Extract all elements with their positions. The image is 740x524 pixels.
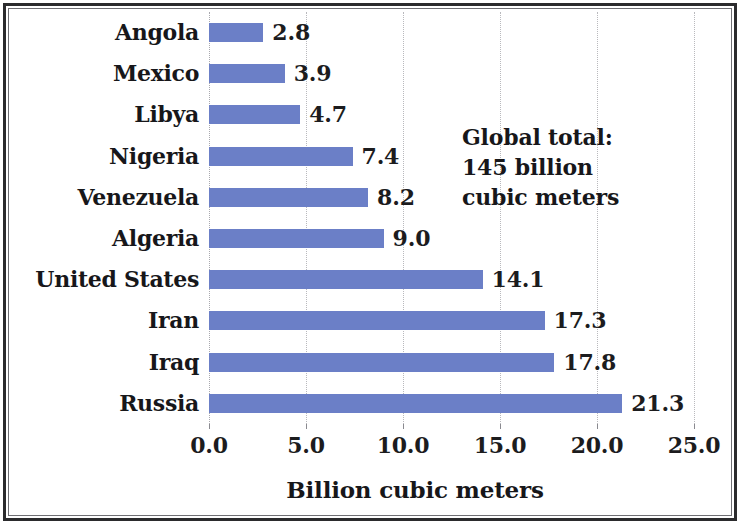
tick-mark-20.0 — [597, 424, 598, 429]
bar-row: 9.0 — [209, 218, 694, 259]
x-tick-label: 10.0 — [377, 432, 429, 458]
category-label-united-states: United States — [0, 266, 199, 292]
global-total-annotation: Global total: 145 billion cubic meters — [462, 122, 619, 212]
plot-area: 2.83.94.77.48.29.014.117.317.821.3 — [209, 12, 694, 424]
bar-algeria[interactable] — [209, 229, 384, 248]
bar-iraq[interactable] — [209, 353, 554, 372]
bar-value-label: 9.0 — [393, 225, 431, 251]
bar-venezuela[interactable] — [209, 188, 368, 207]
category-label-iran: Iran — [0, 307, 199, 333]
bar-mexico[interactable] — [209, 64, 285, 83]
annotation-line-3: cubic meters — [462, 182, 619, 212]
category-label-algeria: Algeria — [0, 225, 199, 251]
x-tick-label: 20.0 — [571, 432, 623, 458]
annotation-line-1: Global total: — [462, 122, 619, 152]
category-axis-labels: AngolaMexicoLibyaNigeriaVenezuelaAlgeria… — [0, 12, 199, 424]
tick-mark-25.0 — [694, 424, 695, 429]
tick-mark-10.0 — [403, 424, 404, 429]
x-tick-label: 25.0 — [668, 432, 720, 458]
bar-value-label: 2.8 — [272, 19, 310, 45]
bar-iran[interactable] — [209, 311, 545, 330]
bar-libya[interactable] — [209, 105, 300, 124]
tick-mark-15.0 — [500, 424, 501, 429]
bar-row: 17.3 — [209, 300, 694, 341]
bar-russia[interactable] — [209, 394, 622, 413]
bar-angola[interactable] — [209, 23, 263, 42]
category-label-nigeria: Nigeria — [0, 143, 199, 169]
bar-row: 7.4 — [209, 136, 694, 177]
bar-nigeria[interactable] — [209, 147, 353, 166]
bar-value-label: 17.3 — [554, 307, 607, 333]
tick-mark-5.0 — [306, 424, 307, 429]
bar-row: 17.8 — [209, 342, 694, 383]
bar-value-label: 21.3 — [631, 390, 684, 416]
bar-value-label: 17.8 — [563, 349, 616, 375]
x-tick-label: 15.0 — [474, 432, 526, 458]
category-label-iraq: Iraq — [0, 349, 199, 375]
bar-row: 4.7 — [209, 94, 694, 135]
bar-row: 21.3 — [209, 383, 694, 424]
bar-value-label: 4.7 — [309, 101, 347, 127]
annotation-line-2: 145 billion — [462, 152, 619, 182]
bar-value-label: 14.1 — [492, 266, 545, 292]
bar-row: 3.9 — [209, 53, 694, 94]
category-label-libya: Libya — [0, 101, 199, 127]
category-label-venezuela: Venezuela — [0, 184, 199, 210]
x-tick-label: 0.0 — [190, 432, 227, 458]
x-tick-label: 5.0 — [287, 432, 324, 458]
category-label-russia: Russia — [0, 390, 199, 416]
gridline-25.0 — [694, 12, 696, 424]
tick-mark-0.0 — [209, 424, 210, 429]
x-axis-title: Billion cubic meters — [0, 476, 740, 503]
category-label-mexico: Mexico — [0, 60, 199, 86]
bar-value-label: 8.2 — [377, 184, 415, 210]
bar-value-label: 3.9 — [294, 60, 332, 86]
bar-row: 14.1 — [209, 259, 694, 300]
bar-row: 2.8 — [209, 12, 694, 53]
bar-value-label: 7.4 — [362, 143, 400, 169]
bar-row: 8.2 — [209, 177, 694, 218]
bar-united-states[interactable] — [209, 270, 483, 289]
bar-chart-figure: AngolaMexicoLibyaNigeriaVenezuelaAlgeria… — [0, 0, 740, 524]
category-label-angola: Angola — [0, 19, 199, 45]
